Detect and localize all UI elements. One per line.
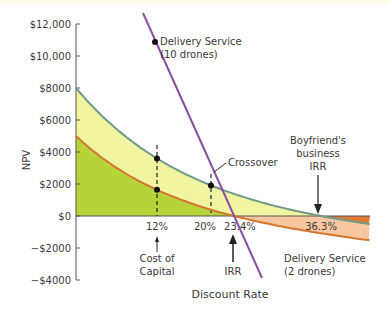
xlabel: Discount Rate (191, 288, 268, 301)
label-cost-2: Capital (139, 266, 174, 277)
label-10drones-1: Delivery Service (160, 36, 242, 47)
label-boyfriend-1: Boyfriend's (290, 135, 346, 146)
data-point (208, 182, 214, 188)
npv-chart: $12,000$10,000$8000$6000$4000$2000$0−$20… (0, 0, 389, 316)
x-tick-label: 12% (146, 221, 168, 232)
data-point (154, 155, 160, 161)
y-tick-label: $2000 (39, 179, 71, 190)
boyfriend-arrowhead (314, 204, 322, 214)
y-tick-label: $6000 (39, 115, 71, 126)
label-2drones-2: (2 drones) (284, 266, 336, 277)
ylabel: NPV (21, 150, 32, 171)
y-tick-label: $10,000 (30, 51, 71, 62)
label-cost-1: Cost of (139, 253, 175, 264)
cost-capital-arrowhead (155, 236, 159, 242)
label-irr: IRR (225, 266, 242, 277)
y-tick-label: $12,000 (30, 19, 71, 30)
y-tick-label: $0 (58, 211, 71, 222)
y-tick-label: −$4000 (31, 275, 71, 286)
label-2drones-1: Delivery Service (284, 253, 366, 264)
crossover-pointer (214, 163, 226, 172)
label-crossover: Crossover (228, 157, 279, 168)
irr-arrowhead (229, 234, 237, 244)
y-tick-label: −$2000 (31, 243, 71, 254)
label-boyfriend-2: business (296, 148, 340, 159)
x-tick-label: 20% (194, 221, 216, 232)
x-tick-label: 36.3% (305, 221, 337, 232)
y-tick-label: $8000 (39, 83, 71, 94)
label-boyfriend-3: IRR (310, 161, 327, 172)
data-point (154, 187, 160, 193)
y-tick-label: $4000 (39, 147, 71, 158)
data-point (152, 39, 158, 45)
label-10drones-2: (10 drones) (160, 49, 218, 60)
